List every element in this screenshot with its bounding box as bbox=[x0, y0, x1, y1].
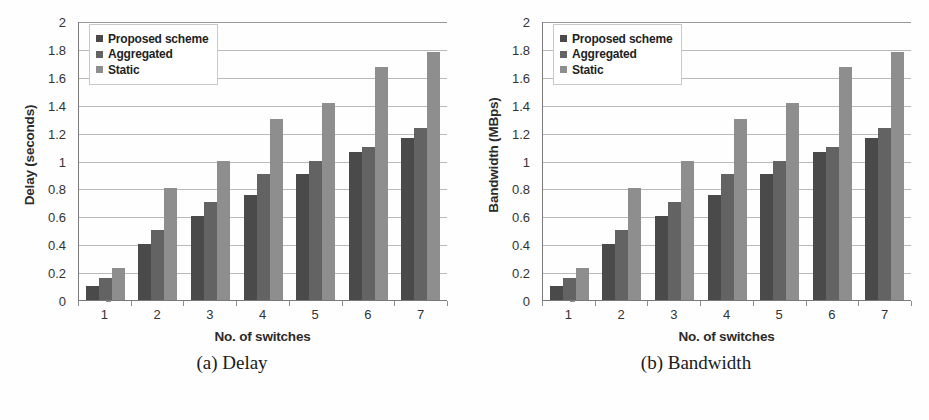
y-tick-label: 0.6 bbox=[48, 211, 66, 224]
bar bbox=[655, 216, 668, 300]
bar-group bbox=[289, 22, 342, 300]
x-tick-mark bbox=[183, 301, 184, 306]
legend-item-label: Aggregated bbox=[108, 47, 173, 61]
x-axis-title: No. of switches bbox=[78, 329, 447, 344]
bar bbox=[602, 244, 615, 300]
legend-item-aggregated: Aggregated bbox=[560, 47, 672, 61]
bar bbox=[322, 103, 335, 300]
bar bbox=[550, 286, 563, 300]
legend-item-label: Proposed scheme bbox=[108, 32, 208, 46]
x-tick-mark bbox=[542, 301, 543, 306]
legend-swatch-icon bbox=[560, 35, 567, 42]
x-tick-label: 1 bbox=[542, 307, 595, 327]
legend-item-static: Static bbox=[96, 63, 208, 77]
y-axis-ticks: 21.81.61.41.210.80.60.40.20 bbox=[34, 22, 70, 301]
bar bbox=[668, 202, 681, 300]
y-tick-label: 1.6 bbox=[48, 71, 66, 84]
bar bbox=[191, 216, 204, 300]
y-tick-label: 1.2 bbox=[512, 127, 530, 140]
bar-group bbox=[753, 22, 806, 300]
bar bbox=[164, 188, 177, 300]
bar bbox=[257, 174, 270, 300]
bar bbox=[615, 230, 628, 300]
figure-row: Delay (seconds) 21.81.61.41.210.80.60.40… bbox=[0, 0, 929, 420]
bar-group bbox=[701, 22, 754, 300]
y-tick-label: 0.6 bbox=[512, 211, 530, 224]
y-tick-label: 0.4 bbox=[48, 239, 66, 252]
x-tick-label: 3 bbox=[183, 307, 236, 327]
x-tick-mark bbox=[753, 301, 754, 306]
bar bbox=[99, 278, 112, 300]
bar bbox=[786, 103, 799, 300]
x-tick-mark bbox=[700, 301, 701, 306]
y-tick-label: 0 bbox=[523, 295, 530, 308]
bar bbox=[878, 128, 891, 300]
x-tick-mark bbox=[447, 301, 448, 306]
bar bbox=[427, 52, 440, 300]
legend-item-label: Static bbox=[108, 63, 139, 77]
y-tick-label: 1.4 bbox=[512, 99, 530, 112]
bar bbox=[773, 161, 786, 301]
chart-bandwidth: Bandwidth (MBps) 21.81.61.41.210.80.60.4… bbox=[464, 0, 928, 350]
y-tick-label: 0.8 bbox=[48, 183, 66, 196]
y-tick-label: 0 bbox=[59, 295, 66, 308]
bar bbox=[349, 152, 362, 300]
x-tick-mark bbox=[342, 301, 343, 306]
subfigure-delay: Delay (seconds) 21.81.61.41.210.80.60.40… bbox=[0, 0, 464, 420]
bar bbox=[204, 202, 217, 300]
x-tick-label: 7 bbox=[394, 307, 447, 327]
legend-item-proposed-scheme: Proposed scheme bbox=[560, 32, 672, 46]
x-tick-mark bbox=[131, 301, 132, 306]
x-tick-label: 2 bbox=[595, 307, 648, 327]
y-tick-label: 0.2 bbox=[48, 267, 66, 280]
bar bbox=[86, 286, 99, 300]
bar bbox=[401, 138, 414, 300]
bar-group bbox=[858, 22, 911, 300]
bar bbox=[891, 52, 904, 300]
bar-group bbox=[237, 22, 290, 300]
x-tick-label: 6 bbox=[806, 307, 859, 327]
bar bbox=[721, 174, 734, 300]
x-tick-mark bbox=[858, 301, 859, 306]
x-tick-label: 6 bbox=[342, 307, 395, 327]
legend-item-label: Aggregated bbox=[572, 47, 637, 61]
legend-swatch-icon bbox=[560, 66, 567, 73]
legend-item-proposed-scheme: Proposed scheme bbox=[96, 32, 208, 46]
x-tick-label: 4 bbox=[236, 307, 289, 327]
x-tick-label: 5 bbox=[289, 307, 342, 327]
subfigure-caption: (b) Bandwidth bbox=[464, 352, 928, 374]
legend-item-label: Proposed scheme bbox=[572, 32, 672, 46]
bar-group bbox=[342, 22, 395, 300]
bar bbox=[760, 174, 773, 300]
y-tick-label: 1.8 bbox=[512, 43, 530, 56]
bar bbox=[865, 138, 878, 300]
legend-swatch-icon bbox=[96, 35, 103, 42]
bar bbox=[576, 268, 589, 300]
y-tick-label: 1.8 bbox=[48, 43, 66, 56]
bar bbox=[270, 119, 283, 300]
x-axis-labels: 1234567 bbox=[542, 307, 911, 327]
x-tick-label: 2 bbox=[131, 307, 184, 327]
bar bbox=[826, 147, 839, 300]
x-tick-mark bbox=[911, 301, 912, 306]
x-tick-label: 4 bbox=[700, 307, 753, 327]
y-tick-label: 2 bbox=[523, 16, 530, 29]
legend: Proposed scheme Aggregated Static bbox=[89, 24, 218, 85]
y-tick-label: 2 bbox=[59, 16, 66, 29]
bar bbox=[414, 128, 427, 300]
bar bbox=[734, 119, 747, 300]
x-tick-mark bbox=[595, 301, 596, 306]
bar bbox=[628, 188, 641, 300]
x-axis-labels: 1234567 bbox=[78, 307, 447, 327]
x-tick-mark bbox=[394, 301, 395, 306]
y-tick-label: 1.4 bbox=[48, 99, 66, 112]
x-tick-label: 7 bbox=[858, 307, 911, 327]
x-tick-label: 5 bbox=[753, 307, 806, 327]
legend-item-aggregated: Aggregated bbox=[96, 47, 208, 61]
y-tick-label: 1 bbox=[523, 155, 530, 168]
bar bbox=[296, 174, 309, 300]
bar-group bbox=[806, 22, 859, 300]
bar-group bbox=[394, 22, 447, 300]
bar bbox=[151, 230, 164, 300]
y-tick-label: 0.4 bbox=[512, 239, 530, 252]
